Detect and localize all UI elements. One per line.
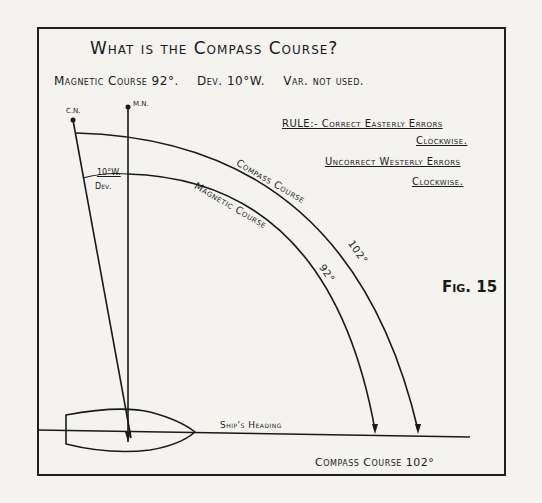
deviation-name: Dev. (95, 182, 112, 191)
deviation-value: 10°W. (97, 168, 121, 177)
magnetic-north-dot (126, 105, 131, 110)
magnetic-arrow-head (372, 424, 378, 434)
compass-arrow-head (415, 424, 421, 434)
magnetic-north-label: M.N. (133, 100, 149, 108)
result-label: Compass Course 102° (315, 456, 434, 469)
ship-heading-line (37, 430, 470, 437)
compass-north-dot (71, 118, 76, 123)
ship-heading-label: Ship's Heading (220, 420, 282, 430)
figure-label: Fig. 15 (442, 278, 497, 296)
compass-north-label: C.N. (66, 107, 81, 115)
